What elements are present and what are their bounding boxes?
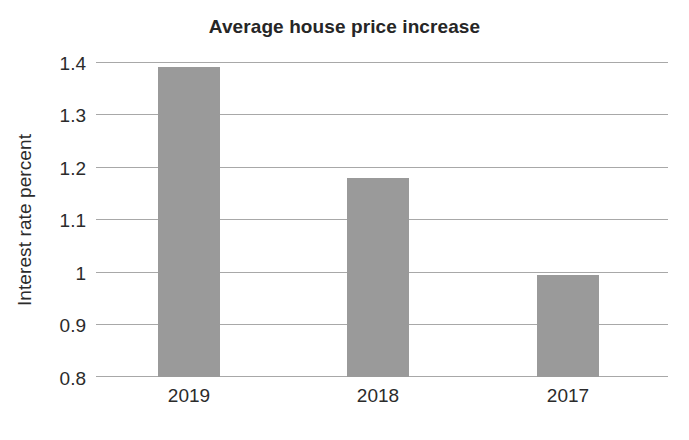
x-tick-label-2018: 2018	[328, 386, 428, 405]
y-tick-label-1-3: 1.3	[4, 106, 86, 125]
y-tick-label-0-8: 0.8	[4, 369, 86, 388]
y-tick-label-1-1: 1.1	[4, 211, 86, 230]
bar-2018[interactable]	[347, 178, 409, 378]
y-tick-label-0-9: 0.9	[4, 316, 86, 335]
x-tick-label-2017: 2017	[518, 386, 618, 405]
bar-chart: Average house price increase Interest ra…	[0, 0, 689, 440]
bar-2017[interactable]	[537, 275, 599, 377]
y-tick-label-1-4: 1.4	[4, 54, 86, 73]
y-tick-label-1: 1	[4, 264, 86, 283]
chart-title: Average house price increase	[0, 16, 689, 38]
gridline-1-4	[96, 62, 668, 63]
plot-area	[96, 62, 668, 377]
y-tick-label-1-2: 1.2	[4, 159, 86, 178]
bar-2019[interactable]	[158, 67, 220, 377]
x-tick-label-2019: 2019	[139, 386, 239, 405]
